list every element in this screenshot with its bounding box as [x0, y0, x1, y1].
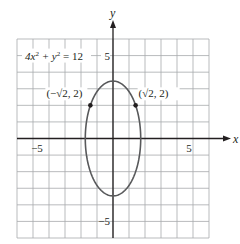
- x-axis-arrow-icon: [223, 136, 231, 142]
- equation-part-2: + y: [39, 50, 57, 62]
- x-axis-label: x: [232, 132, 239, 146]
- point-label: (−√2, 2): [46, 87, 82, 100]
- y-axis-label: y: [109, 6, 116, 20]
- equation-part-1: 4x: [25, 50, 36, 62]
- data-point: [133, 103, 138, 108]
- equation-label: 4x2 + y2 = 12: [25, 50, 83, 62]
- data-point: [88, 103, 93, 108]
- y-axis-arrow-icon: [110, 20, 116, 28]
- point-label: (√2, 2): [139, 87, 169, 100]
- y-tick-label: −5: [98, 215, 110, 227]
- equation-part-3: = 12: [60, 50, 83, 62]
- x-tick-label: −5: [31, 142, 43, 154]
- y-tick-label: 5: [105, 50, 111, 62]
- ellipse-chart: −555−5(−√2, 2)(√2, 2) 4x2 + y2 = 12 x y: [0, 0, 240, 244]
- x-tick-label: 5: [186, 142, 192, 154]
